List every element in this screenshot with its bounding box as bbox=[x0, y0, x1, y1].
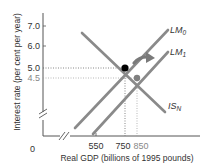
x-tick-550: 550 bbox=[88, 141, 103, 151]
y-tick-6: 6.0 bbox=[27, 41, 40, 51]
lm0-curve bbox=[75, 30, 168, 128]
x-tick-750: 750 bbox=[115, 141, 130, 151]
x-axis-break bbox=[59, 131, 70, 141]
equilibrium-new bbox=[134, 75, 140, 81]
y-tick-7: 7.0 bbox=[27, 21, 40, 31]
lm1-curve bbox=[93, 52, 168, 134]
y-tick-5: 5.0 bbox=[27, 63, 40, 73]
origin-label: 0 bbox=[30, 144, 35, 154]
is-lm-chart: 7.0 6.0 5.0 4.5 0 550 750 850 Real GDP (… bbox=[0, 0, 209, 168]
y-axis-title: Interest rate (per cent per year) bbox=[12, 13, 22, 131]
lm1-label: LM1 bbox=[170, 47, 187, 58]
lm0-label: LM0 bbox=[170, 25, 187, 36]
x-axis-title: Real GDP (billions of 1995 pounds) bbox=[60, 153, 193, 163]
is-label: ISN bbox=[168, 101, 182, 112]
x-tick-850: 850 bbox=[133, 141, 148, 151]
equilibrium-initial bbox=[121, 64, 128, 71]
y-tick-4-5: 4.5 bbox=[27, 73, 40, 83]
